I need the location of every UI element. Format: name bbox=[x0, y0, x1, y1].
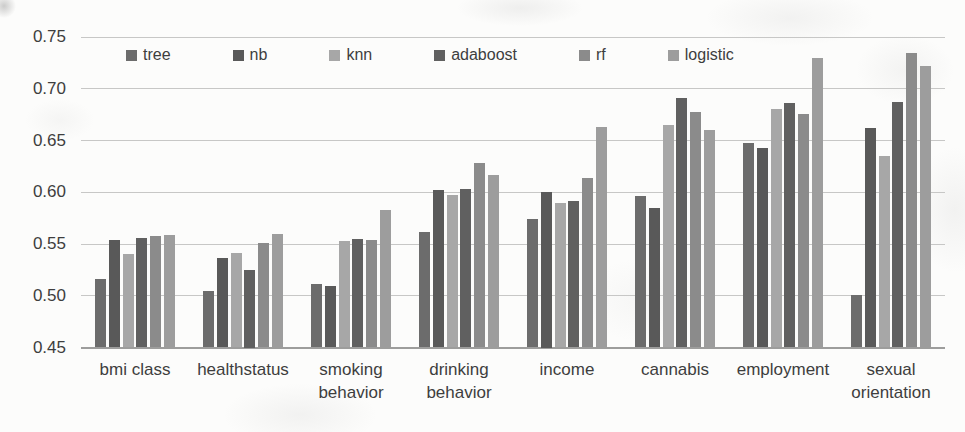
bar-logistic-drinking-behavior bbox=[488, 175, 499, 348]
gridline-0.75 bbox=[81, 37, 945, 38]
legend-swatch-nb-icon bbox=[233, 50, 244, 61]
legend-item-adaboost: adaboost bbox=[434, 47, 517, 63]
x-label-healthstatus: healthstatus bbox=[190, 358, 296, 381]
bar-rf-healthstatus bbox=[258, 243, 269, 348]
bar-tree-cannabis bbox=[635, 196, 646, 347]
legend-swatch-knn-icon bbox=[329, 50, 340, 61]
x-label-income: income bbox=[514, 358, 620, 381]
bar-tree-smoking-behavior bbox=[311, 284, 322, 347]
legend-swatch-tree-icon bbox=[126, 50, 137, 61]
bar-logistic-cannabis bbox=[704, 130, 715, 347]
bar-rf-employment bbox=[798, 114, 809, 348]
legend-label-nb: nb bbox=[250, 47, 268, 63]
y-tick-label-0.55: 0.55 bbox=[8, 234, 66, 254]
bar-nb-smoking-behavior bbox=[325, 286, 336, 347]
bar-adaboost-sexual-orientation bbox=[892, 102, 903, 347]
legend-item-rf: rf bbox=[579, 47, 606, 63]
bar-adaboost-drinking-behavior bbox=[460, 189, 471, 347]
bar-rf-sexual-orientation bbox=[906, 53, 917, 348]
bar-knn-employment bbox=[771, 109, 782, 347]
bar-adaboost-bmi-class bbox=[136, 238, 147, 348]
bar-nb-income bbox=[541, 192, 552, 347]
bar-logistic-bmi-class bbox=[164, 235, 175, 348]
bar-logistic-healthstatus bbox=[272, 234, 283, 348]
y-tick-label-0.60: 0.60 bbox=[8, 182, 66, 202]
bar-rf-drinking-behavior bbox=[474, 163, 485, 347]
bar-nb-bmi-class bbox=[109, 240, 120, 348]
y-tick-label-0.75: 0.75 bbox=[8, 27, 66, 47]
bar-logistic-sexual-orientation bbox=[920, 66, 931, 348]
y-tick-label-0.50: 0.50 bbox=[8, 286, 66, 306]
bar-tree-healthstatus bbox=[203, 291, 214, 348]
bar-logistic-income bbox=[596, 127, 607, 347]
bar-knn-drinking-behavior bbox=[447, 195, 458, 347]
bar-rf-income bbox=[582, 178, 593, 348]
bar-knn-income bbox=[555, 203, 566, 348]
legend-item-knn: knn bbox=[329, 47, 372, 63]
bar-adaboost-employment bbox=[784, 103, 795, 347]
legend-label-tree: tree bbox=[143, 47, 171, 63]
legend-swatch-logistic-icon bbox=[668, 50, 679, 61]
bar-knn-healthstatus bbox=[231, 253, 242, 347]
bar-rf-bmi-class bbox=[150, 236, 161, 348]
x-label-bmi-class: bmi class bbox=[82, 358, 188, 381]
bar-tree-bmi-class bbox=[95, 279, 106, 347]
legend-swatch-adaboost-icon bbox=[434, 50, 445, 61]
chart-legend: treenbknnadaboostrflogistic bbox=[126, 47, 734, 63]
x-label-smoking-behavior: smoking behavior bbox=[298, 358, 404, 404]
bar-tree-drinking-behavior bbox=[419, 232, 430, 348]
legend-label-rf: rf bbox=[596, 47, 606, 63]
bar-logistic-employment bbox=[812, 58, 823, 348]
bar-rf-smoking-behavior bbox=[366, 240, 377, 348]
legend-label-logistic: logistic bbox=[685, 47, 734, 63]
y-tick-label-0.70: 0.70 bbox=[8, 79, 66, 99]
bar-adaboost-healthstatus bbox=[244, 270, 255, 348]
legend-item-tree: tree bbox=[126, 47, 171, 63]
bar-nb-cannabis bbox=[649, 208, 660, 348]
bar-logistic-smoking-behavior bbox=[380, 210, 391, 348]
bar-nb-drinking-behavior bbox=[433, 190, 444, 347]
x-label-employment: employment bbox=[730, 358, 836, 381]
bar-nb-sexual-orientation bbox=[865, 128, 876, 347]
bar-tree-income bbox=[527, 219, 538, 347]
x-label-sexual-orientation: sexual orientation bbox=[838, 358, 944, 404]
legend-swatch-rf-icon bbox=[579, 50, 590, 61]
bar-tree-sexual-orientation bbox=[851, 295, 862, 348]
scanned-bar-chart-figure: 0.750.700.650.600.550.500.45bmi classhea… bbox=[0, 0, 965, 432]
x-label-cannabis: cannabis bbox=[622, 358, 728, 381]
bar-adaboost-smoking-behavior bbox=[352, 239, 363, 348]
bar-nb-employment bbox=[757, 148, 768, 348]
y-tick-label-0.45: 0.45 bbox=[8, 338, 66, 358]
y-tick-label-0.65: 0.65 bbox=[8, 131, 66, 151]
legend-label-adaboost: adaboost bbox=[451, 47, 517, 63]
bar-tree-employment bbox=[743, 143, 754, 348]
bar-knn-bmi-class bbox=[123, 254, 134, 347]
legend-item-logistic: logistic bbox=[668, 47, 734, 63]
x-label-drinking-behavior: drinking behavior bbox=[406, 358, 512, 404]
bar-adaboost-income bbox=[568, 201, 579, 348]
bar-knn-smoking-behavior bbox=[339, 241, 350, 348]
bar-knn-sexual-orientation bbox=[879, 156, 890, 347]
bar-adaboost-cannabis bbox=[676, 98, 687, 347]
legend-item-nb: nb bbox=[233, 47, 268, 63]
bar-nb-healthstatus bbox=[217, 258, 228, 347]
legend-label-knn: knn bbox=[346, 47, 372, 63]
bar-knn-cannabis bbox=[663, 125, 674, 348]
bar-rf-cannabis bbox=[690, 112, 701, 348]
